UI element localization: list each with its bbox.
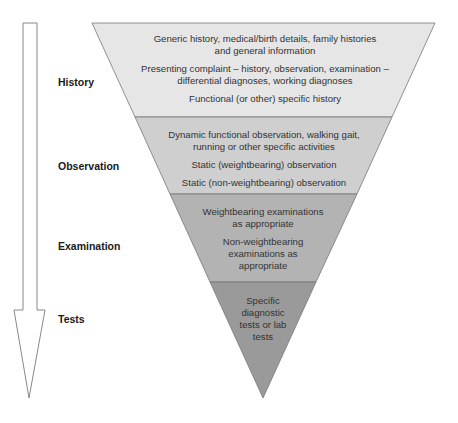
tests-item: Specific diagnostic tests or lab tests <box>235 295 291 343</box>
examination-item: Weightbearing examinations as appropriat… <box>198 206 328 230</box>
stage-label-examination: Examination <box>58 240 120 252</box>
observation-items: Dynamic functional observation, walking … <box>158 129 370 195</box>
history-item: Generic history, medical/birth details, … <box>150 33 380 57</box>
examination-item: Non-weightbearing examinations as approp… <box>218 236 308 272</box>
down-arrow-icon <box>14 23 45 398</box>
observation-item: Dynamic functional observation, walking … <box>158 129 370 153</box>
history-item: Functional (or other) specific history <box>150 93 380 105</box>
stage-label-history: History <box>58 76 94 88</box>
observation-item: Static (weightbearing) observation <box>158 159 370 171</box>
history-items: Generic history, medical/birth details, … <box>150 33 380 111</box>
stage-label-tests: Tests <box>58 313 85 325</box>
examination-items: Weightbearing examinations as appropriat… <box>198 206 328 278</box>
history-item: Presenting complaint – history, observat… <box>134 63 396 87</box>
tests-items: Specific diagnostic tests or lab tests <box>235 295 291 349</box>
observation-item: Static (non-weightbearing) observation <box>158 177 370 189</box>
stage-label-observation: Observation <box>58 160 119 172</box>
